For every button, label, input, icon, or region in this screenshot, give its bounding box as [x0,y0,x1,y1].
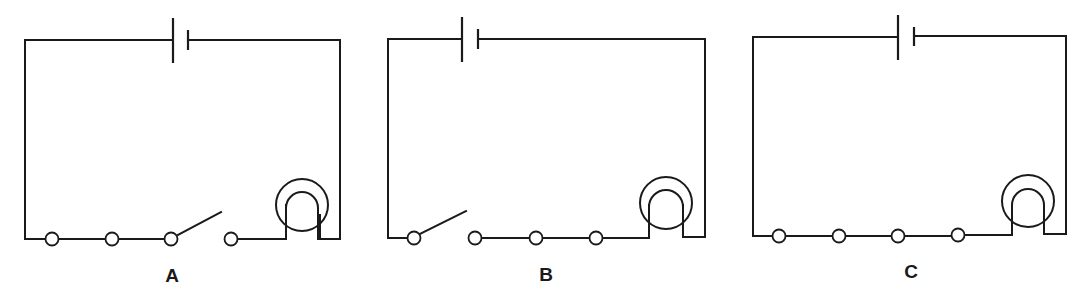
battery-icon [898,15,914,60]
terminal-icon [469,232,482,245]
circuit-b: B [388,17,705,285]
terminal-icon [165,233,178,246]
terminal-icon [892,230,905,243]
terminal-icon [952,229,965,242]
wire-top-left [25,40,173,239]
switch-lever [178,212,221,235]
circuit-label: A [165,265,179,286]
terminal-icon [408,232,421,245]
battery-icon [462,17,478,62]
light-bulb-icon [640,177,705,238]
battery-icon [173,18,188,63]
terminal-icon [106,233,119,246]
terminal-icon [46,233,59,246]
light-bulb-icon [276,179,340,239]
circuit-a: A [25,18,340,286]
terminal-icon [225,233,238,246]
switch-lever [420,211,466,234]
terminal-icon [833,230,846,243]
circuit-label: C [904,261,918,282]
terminal-icon [773,230,786,243]
circuit-c: C [753,15,1066,282]
circuit-label: B [539,264,553,285]
terminal-icon [590,232,603,245]
light-bulb-icon [1002,175,1066,235]
terminal-icon [530,232,543,245]
